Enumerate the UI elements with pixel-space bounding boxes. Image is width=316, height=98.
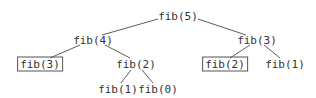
edge-fib3-fib1 (264, 45, 280, 58)
node-fib5: fib(5) (156, 10, 200, 23)
edge-fib2-fib0 (142, 70, 153, 83)
node-fib3: fib(3) (235, 34, 279, 47)
node-fib2-memoized: fib(2) (202, 57, 248, 72)
node-fib0: fib(0) (136, 83, 180, 96)
node-fib2: fib(2) (114, 58, 158, 71)
node-fib4: fib(4) (71, 34, 115, 47)
fibonacci-recursion-tree: fib(5) fib(4) fib(3) fib(3) fib(2) fib(2… (0, 0, 316, 98)
edge-fib2-fib1 (121, 70, 131, 83)
edge-fib4-fib2 (105, 45, 130, 58)
node-fib1: fib(1) (96, 83, 140, 96)
node-fib1-right: fib(1) (263, 58, 307, 71)
node-fib3-memoized: fib(3) (17, 57, 63, 72)
